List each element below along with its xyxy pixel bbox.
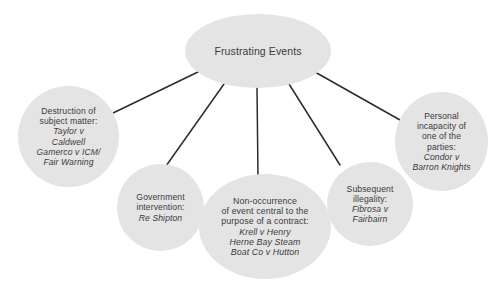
connector-root-to-government <box>166 84 224 166</box>
node-illegality-heading-line-2: illegality: <box>353 194 387 204</box>
node-illegality-case-line-1: Fibrosa v <box>352 204 388 214</box>
node-subsequent-illegality[interactable]: Subsequent illegality: Fibrosa v Fairbai… <box>327 162 413 246</box>
node-incapacity-label: Personal incapacity of one of the partie… <box>395 111 488 171</box>
node-illegality-label: Subsequent illegality: Fibrosa v Fairbai… <box>327 184 413 224</box>
node-government-label: Government intervention: Re Shipton <box>117 192 204 222</box>
node-incapacity-heading-line-2: incapacity of <box>417 121 466 131</box>
node-destruction-case-line-1: Taylor v <box>53 126 84 136</box>
connector-root-to-illegality <box>289 84 340 165</box>
connector-root-to-incapacity <box>315 72 400 120</box>
node-government-intervention[interactable]: Government intervention: Re Shipton <box>117 164 204 251</box>
node-nonoccurrence-heading-line-2: of event central to the <box>222 206 309 216</box>
node-government-heading-line-1: Government <box>136 192 184 202</box>
node-destruction-case-line-4: Fair Warning <box>43 157 93 167</box>
connector-root-to-non-occurrence <box>257 88 258 177</box>
node-non-occurrence-of-event[interactable]: Non-occurrence of event central to the p… <box>199 174 331 279</box>
node-government-case-line-1: Re Shipton <box>139 213 183 223</box>
node-destruction-label: Destruction of subject matter: Taylor v … <box>18 106 119 166</box>
node-incapacity-case-line-1: Condor v <box>424 152 460 162</box>
node-destruction-case-line-3: Gamerco v ICM/ <box>37 147 101 157</box>
node-nonoccurrence-case-line-2: Herne Bay Steam <box>230 237 301 247</box>
node-nonoccurrence-case-line-1: Krell v Henry <box>239 227 291 237</box>
node-illegality-heading-line-1: Subsequent <box>347 184 394 194</box>
node-nonoccurrence-label: Non-occurrence of event central to the p… <box>199 196 331 258</box>
node-destruction-of-subject-matter[interactable]: Destruction of subject matter: Taylor v … <box>18 86 119 187</box>
node-frustrating-events[interactable]: Frustrating Events <box>185 14 331 88</box>
diagram-canvas: Frustrating Events Destruction of subjec… <box>0 0 494 289</box>
node-incapacity-heading-line-4: parties: <box>427 142 456 152</box>
node-nonoccurrence-heading-line-1: Non-occurrence <box>233 196 297 206</box>
node-personal-incapacity[interactable]: Personal incapacity of one of the partie… <box>395 92 488 191</box>
node-destruction-heading-line-1: Destruction of <box>41 106 95 116</box>
node-nonoccurrence-case-line-3: Boat Co v Hutton <box>231 247 300 257</box>
node-root-label: Frustrating Events <box>185 45 331 58</box>
node-destruction-case-line-2: Caldwell <box>52 137 85 147</box>
node-destruction-heading-line-2: subject matter: <box>40 116 98 126</box>
node-illegality-case-line-2: Fairbairn <box>353 214 388 224</box>
node-incapacity-heading-line-3: one of the <box>422 131 461 141</box>
node-incapacity-heading-line-1: Personal <box>424 111 459 121</box>
connector-root-to-destruction <box>111 71 200 114</box>
node-incapacity-case-line-2: Barron Knights <box>412 162 470 172</box>
node-government-heading-line-2: intervention: <box>136 202 184 212</box>
node-nonoccurrence-heading-line-3: purpose of a contract: <box>221 216 308 226</box>
